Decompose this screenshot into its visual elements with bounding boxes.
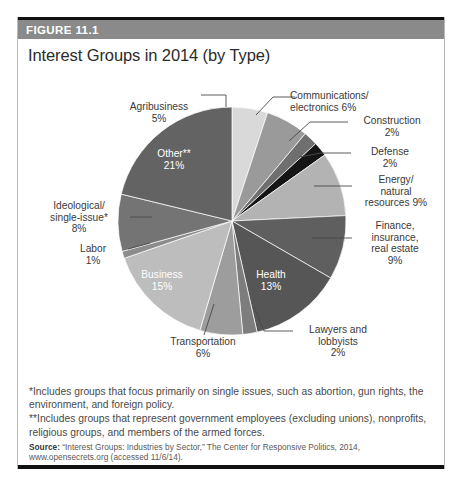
pie-chart: Agribusiness 5% Communications/ electron… (18, 73, 446, 373)
slice-label-lawyers: Lawyers and lobbyists 2% (294, 324, 382, 359)
slice-label-ideological: Ideological/ single-issue* 8% (30, 200, 128, 235)
slice-label-communications: Communications/ electronics 6% (290, 90, 410, 113)
source-citation: Source: “Interest Groups: Industries by … (29, 442, 435, 463)
slice-label-construction: Construction 2% (346, 115, 438, 138)
slice-label-agribusiness: Agribusiness 5% (114, 101, 204, 124)
pie-slice-group (118, 107, 346, 335)
slice-label-finance: Finance, insurance, real estate 9% (350, 220, 440, 266)
figure-notes: *Includes groups that focus primarily on… (29, 385, 435, 471)
figure-header-band: FIGURE 11.1 (18, 20, 444, 39)
slice-label-defense: Defense 2% (350, 146, 430, 169)
slice-label-labor: Labor 1% (58, 243, 128, 266)
page-title: Interest Groups in 2014 (by Type) (28, 46, 270, 65)
slice-label-business: Business 15% (122, 269, 202, 292)
note-double-asterisk: **Includes groups that represent governm… (29, 412, 435, 438)
figure-container: FIGURE 11.1 Interest Groups in 2014 (by … (17, 17, 445, 469)
figure-number-label: FIGURE 11.1 (18, 24, 99, 36)
leader-line-agribusiness (201, 95, 226, 107)
slice-label-health: Health 13% (236, 269, 306, 292)
note-single-asterisk: *Includes groups that focus primarily on… (29, 385, 435, 411)
source-label: Source: (29, 442, 60, 452)
slice-label-other: Other** 21% (134, 148, 214, 171)
slice-label-energy: Energy/ natural resources 9% (348, 174, 444, 209)
figure-bottom-rule (18, 465, 444, 469)
slice-label-transportation: Transportation 6% (151, 336, 255, 359)
source-text: “Interest Groups: Industries by Sector,”… (29, 442, 360, 463)
